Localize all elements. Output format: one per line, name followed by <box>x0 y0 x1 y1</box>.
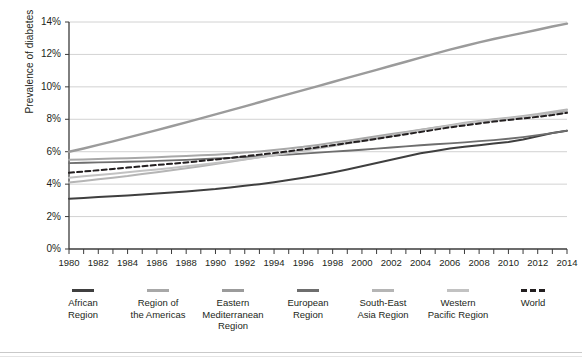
legend-label-line: Region of <box>131 297 186 309</box>
legend-swatch-icon <box>372 289 394 292</box>
legend-swatch-icon <box>147 289 169 292</box>
legend-label-line: African <box>68 297 98 309</box>
legend-label-line: Region <box>287 309 328 321</box>
legend-item-label: World <box>521 297 546 309</box>
legend-label-line: Asia Region <box>357 309 408 321</box>
legend-label-line: Region <box>68 309 98 321</box>
x-axis-tick-label: 2014 <box>547 257 582 268</box>
legend-item-label: EuropeanRegion <box>287 297 328 320</box>
legend-item-label: Region ofthe Americas <box>131 297 186 320</box>
chart-legend: AfricanRegionRegion ofthe AmericasEaster… <box>46 286 570 346</box>
legend-swatch-icon <box>521 289 545 292</box>
series-line-eastern-mediterranean-region <box>69 24 567 152</box>
y-axis-tick-label: 14% <box>27 16 61 27</box>
y-axis-tick-label: 8% <box>27 113 61 124</box>
y-axis-tick-label: 0% <box>27 243 61 254</box>
legend-item-western-pacific-region[interactable]: WesternPacific Region <box>421 286 495 320</box>
legend-item-region-of-the-americas[interactable]: Region ofthe Americas <box>121 286 195 320</box>
y-axis-tick-label: 6% <box>27 146 61 157</box>
legend-label-line: Eastern <box>202 297 263 309</box>
legend-item-european-region[interactable]: EuropeanRegion <box>271 286 345 320</box>
legend-swatch-icon <box>447 289 469 292</box>
chart-figure: Prevalence of diabetes 0%2%4%6%8%10%12%1… <box>0 0 582 361</box>
y-axis-tick-label: 4% <box>27 178 61 189</box>
y-axis-tick-label: 10% <box>27 81 61 92</box>
y-axis-tick-label: 12% <box>27 48 61 59</box>
legend-item-label: AfricanRegion <box>68 297 98 320</box>
legend-item-african-region[interactable]: AfricanRegion <box>46 286 120 320</box>
legend-item-world[interactable]: World <box>496 286 570 309</box>
legend-label-line: Region <box>202 320 263 332</box>
legend-swatch-icon <box>72 289 94 292</box>
line-chart-plot <box>0 0 582 290</box>
footer-divider-secondary <box>0 356 582 357</box>
footer-divider <box>0 352 582 353</box>
legend-item-south-east-asia-region[interactable]: South-EastAsia Region <box>346 286 420 320</box>
legend-label-line: Mediterranean <box>202 309 263 321</box>
legend-label-line: Pacific Region <box>428 309 489 321</box>
legend-label-line: European <box>287 297 328 309</box>
legend-label-line: South-East <box>357 297 408 309</box>
legend-label-line: Western <box>428 297 489 309</box>
legend-swatch-icon <box>222 289 244 292</box>
legend-item-label: South-EastAsia Region <box>357 297 408 320</box>
legend-item-label: EasternMediterraneanRegion <box>202 297 263 332</box>
legend-label-line: World <box>521 297 546 309</box>
legend-swatch-icon <box>297 289 319 292</box>
legend-item-eastern-mediterranean-region[interactable]: EasternMediterraneanRegion <box>196 286 270 332</box>
legend-label-line: the Americas <box>131 309 186 321</box>
legend-item-label: WesternPacific Region <box>428 297 489 320</box>
y-axis-tick-label: 2% <box>27 211 61 222</box>
